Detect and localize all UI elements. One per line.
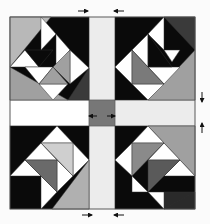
quilt-diagram (0, 0, 210, 224)
center-square (89, 100, 115, 126)
block-bottom-right (115, 126, 195, 209)
block-top-right (115, 17, 195, 100)
block-bottom-left (10, 126, 89, 209)
block-top-left (10, 17, 89, 100)
